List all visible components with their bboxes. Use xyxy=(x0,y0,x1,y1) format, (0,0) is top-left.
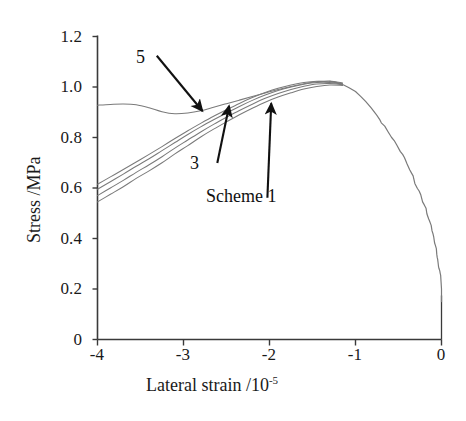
arrow-scheme-5 xyxy=(157,56,203,111)
annotation-arrows-layer xyxy=(157,56,271,198)
curve-common-descending-branch xyxy=(330,81,442,289)
y-tick-label-1.2: 1.2 xyxy=(24,27,82,47)
x-tick-label--1: -1 xyxy=(335,345,375,365)
x-tick-label--2: -2 xyxy=(249,345,289,365)
curve-scheme-4 xyxy=(98,81,343,184)
annotation-scheme-1: Scheme 1 xyxy=(206,186,276,207)
y-tick-label-0.8: 0.8 xyxy=(24,128,82,148)
y-tick-label-0.2: 0.2 xyxy=(24,279,82,299)
curve-scheme-2 xyxy=(98,83,343,195)
x-tick-label--3: -3 xyxy=(163,345,203,365)
chart-figure: 0 0.2 0.4 0.6 0.8 1.0 1.2 -4 -3 -2 -1 0 … xyxy=(0,0,466,421)
y-tick-label-1.0: 1.0 xyxy=(24,77,82,97)
x-tick-label-0: 0 xyxy=(421,345,461,365)
annotation-scheme-3: 3 xyxy=(190,153,199,174)
y-axis-title: Stress /MPa xyxy=(24,156,45,243)
chart-canvas xyxy=(0,0,466,421)
arrow-scheme-1 xyxy=(267,103,271,197)
x-axis-title: Lateral strain /10-5 xyxy=(146,374,278,396)
y-tick-label-0: 0 xyxy=(24,330,82,350)
x-axis-title-exponent: -5 xyxy=(269,374,278,386)
x-tick-label--4: -4 xyxy=(77,345,117,365)
curve-scheme-1 xyxy=(98,85,343,202)
x-axis-title-base: Lateral strain /10 xyxy=(146,375,269,395)
annotation-scheme-5: 5 xyxy=(136,47,145,68)
